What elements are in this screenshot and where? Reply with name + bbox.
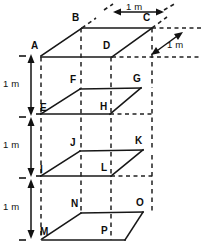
- geometry-diagram: 1 m 1 m 1 m 1 m 1 m A B C D E F G H I J …: [0, 0, 202, 246]
- edge-C-D: [112, 28, 152, 57]
- edge-A-B: [41, 28, 82, 56]
- edge-N-O: [81, 212, 143, 213]
- dimension-label-height-2: 1 m: [3, 139, 19, 150]
- vertex-label-J: J: [70, 138, 76, 148]
- dim-h1-arrow-down: [28, 107, 35, 116]
- dim-top-ext-right: [164, 3, 176, 10]
- vertex-label-H: H: [100, 102, 107, 112]
- vertical-dashed-rules: [41, 28, 152, 240]
- vertex-label-G: G: [133, 74, 141, 84]
- dashed-B-up: [82, 18, 96, 28]
- dimension-height-3: [19, 179, 35, 240]
- dim-h3-arrow-up: [28, 179, 35, 188]
- dim-top-ext-left: [104, 4, 113, 10]
- vertex-label-C: C: [143, 13, 150, 23]
- dim-h1-arrow-up: [28, 54, 35, 63]
- dim-h2-arrow-down: [28, 168, 35, 177]
- dimension-label-height-3: 1 m: [3, 201, 19, 212]
- dashed-C-up: [152, 17, 167, 28]
- third-face-group: [41, 150, 152, 176]
- dimension-label-depth: 1 m: [167, 39, 183, 50]
- dimension-height-1: [19, 54, 35, 117]
- dim-top-arrow-left: [113, 9, 121, 16]
- edge-O-corner: [125, 212, 143, 240]
- vertex-label-D: D: [103, 41, 110, 51]
- dim-h3-arrow-down: [28, 230, 35, 239]
- vertex-label-F: F: [70, 75, 76, 85]
- edge-K-L: [111, 150, 143, 176]
- vertex-label-N: N: [71, 199, 78, 209]
- top-face-group: [41, 28, 152, 57]
- vertex-label-B: B: [72, 13, 79, 23]
- second-face-group: [41, 88, 152, 114]
- vertex-label-E: E: [40, 103, 47, 113]
- vertex-label-P: P: [101, 226, 108, 236]
- edge-I-J: [41, 151, 80, 176]
- dimension-height-2: [19, 117, 35, 178]
- vertex-label-K: K: [135, 136, 142, 146]
- vertex-label-O: O: [136, 198, 144, 208]
- vertex-label-M: M: [40, 227, 48, 237]
- vertex-label-A: A: [31, 41, 38, 51]
- dimension-label-top-width: 1 m: [126, 1, 142, 12]
- vertex-label-L: L: [101, 163, 107, 173]
- edge-G-H: [110, 88, 141, 114]
- dimension-label-height-1: 1 m: [3, 78, 19, 89]
- edge-J-K: [80, 150, 143, 151]
- edge-F-G: [80, 88, 141, 89]
- diagram-canvas: [0, 0, 202, 246]
- vertex-label-I: I: [40, 165, 43, 175]
- dim-h2-arrow-up: [28, 117, 35, 126]
- top-dashed-extensions: [82, 17, 202, 57]
- dim-top-arrow-right: [156, 9, 164, 16]
- bottom-face-group: [42, 212, 143, 240]
